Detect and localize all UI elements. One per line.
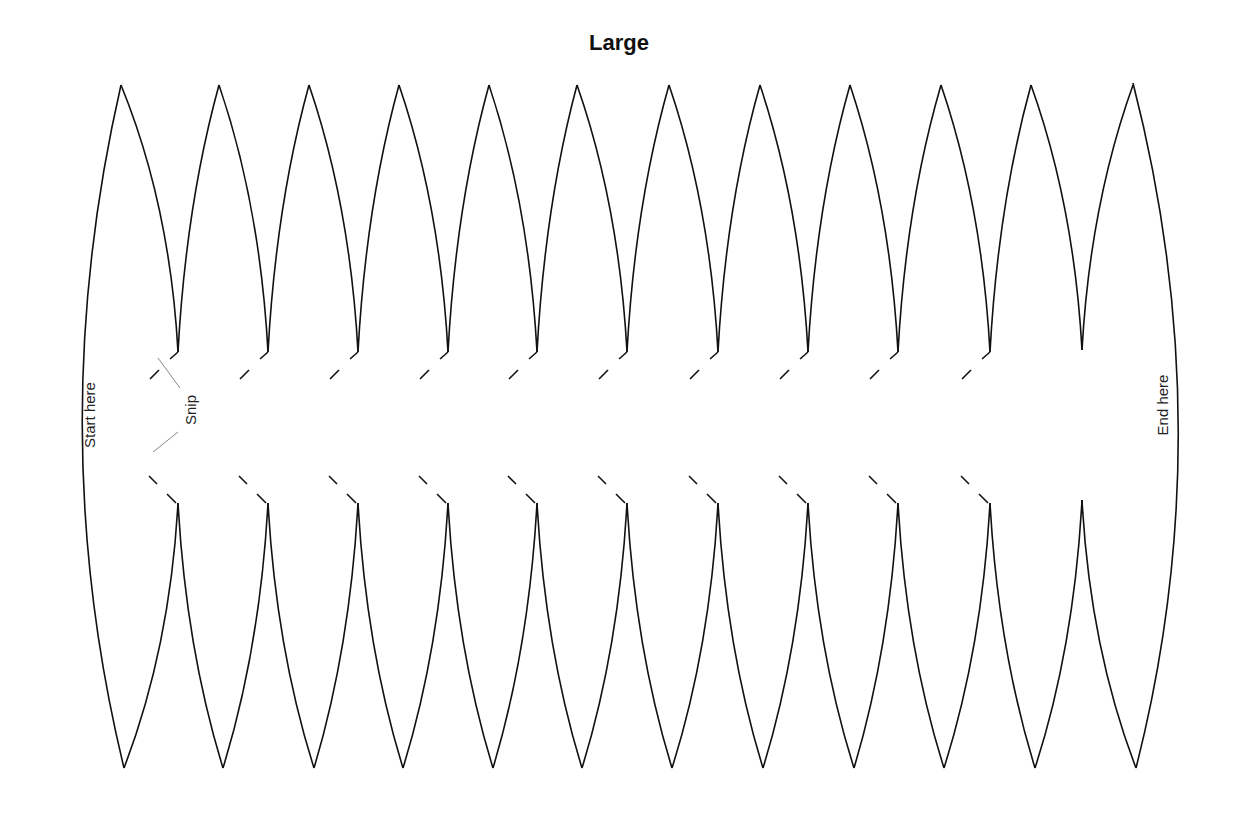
outline-segment bbox=[1082, 85, 1133, 350]
outline-segment bbox=[223, 503, 268, 768]
start-here-label: Start here bbox=[81, 382, 98, 448]
outline-segment bbox=[599, 370, 608, 379]
outline-segment bbox=[898, 503, 944, 768]
outline-segment bbox=[239, 476, 247, 484]
outline-segment bbox=[669, 85, 718, 352]
outline-segment bbox=[529, 352, 537, 359]
outline-segment bbox=[121, 85, 178, 352]
outline-segment bbox=[178, 85, 219, 352]
outline-segment bbox=[616, 494, 625, 503]
end-here-label: End here bbox=[1154, 375, 1171, 436]
outline-segment bbox=[448, 85, 489, 352]
outline-segment bbox=[627, 503, 672, 768]
outline-segment bbox=[489, 85, 537, 352]
outline-segment bbox=[941, 85, 990, 352]
outline-segment bbox=[898, 85, 941, 352]
outline-segment bbox=[526, 494, 535, 503]
outline-segment bbox=[869, 476, 877, 484]
outline-segment bbox=[150, 370, 159, 379]
outline-segment bbox=[707, 494, 716, 503]
outline-segment bbox=[219, 85, 268, 352]
outline-segment bbox=[314, 503, 358, 768]
outline-segment bbox=[268, 85, 309, 352]
outline-segment bbox=[854, 503, 898, 768]
snip-label: Snip bbox=[182, 395, 199, 425]
outline-segment bbox=[780, 370, 789, 379]
outline-segment bbox=[962, 370, 971, 379]
outline-segment bbox=[350, 352, 358, 359]
outline-segment bbox=[944, 503, 990, 768]
outline-segment bbox=[260, 352, 268, 359]
outline-segment bbox=[760, 85, 808, 352]
outline-segment bbox=[808, 85, 850, 352]
outline-segment bbox=[419, 476, 427, 484]
outline-segment bbox=[887, 494, 896, 503]
outline-segment bbox=[800, 352, 808, 359]
outline-segment bbox=[890, 352, 898, 359]
outline-segment bbox=[440, 352, 448, 359]
outline-segment bbox=[619, 352, 627, 359]
outline-segment bbox=[493, 503, 537, 768]
outline-segment bbox=[178, 503, 223, 768]
outline-segment bbox=[1035, 500, 1082, 768]
outline-segment bbox=[850, 85, 898, 352]
outline-segment bbox=[399, 85, 448, 352]
outline-segment bbox=[870, 370, 879, 379]
outline-segment bbox=[710, 352, 718, 359]
outline-segment bbox=[979, 494, 988, 503]
outline-segment bbox=[672, 503, 718, 768]
outline-segment bbox=[689, 476, 697, 484]
outline-segment bbox=[627, 85, 669, 352]
outline-segment bbox=[990, 503, 1035, 768]
outline-segment bbox=[240, 370, 249, 379]
outline-segment bbox=[779, 476, 787, 484]
outline-segment bbox=[330, 370, 339, 379]
outline-segment bbox=[690, 370, 699, 379]
outline-segment bbox=[124, 503, 178, 768]
outline-segment bbox=[582, 503, 627, 768]
outline-segment bbox=[797, 494, 806, 503]
outline-segment bbox=[257, 494, 266, 503]
outline-segment bbox=[990, 85, 1031, 352]
outline-segment bbox=[167, 494, 176, 503]
outline-segment bbox=[358, 503, 403, 768]
outline-segment bbox=[1031, 85, 1082, 350]
outline-segment bbox=[509, 370, 518, 379]
outline-segment bbox=[437, 494, 446, 503]
outline-segment bbox=[982, 352, 990, 359]
outline-segment bbox=[268, 503, 314, 768]
outline-segment bbox=[358, 85, 399, 352]
outline-segment bbox=[403, 503, 448, 768]
outline-segment bbox=[598, 476, 606, 484]
outline-segment bbox=[537, 85, 577, 352]
outline-segment bbox=[537, 503, 582, 768]
outline-segment bbox=[347, 494, 356, 503]
outline-segment bbox=[149, 476, 157, 484]
outline-segment bbox=[718, 503, 763, 768]
outline-segment bbox=[170, 352, 178, 359]
outline-segment bbox=[1082, 500, 1136, 768]
snip-marks bbox=[149, 352, 990, 503]
outline-segment bbox=[329, 476, 337, 484]
outline-segment bbox=[309, 85, 358, 352]
outline-segment bbox=[961, 476, 969, 484]
gore-outline bbox=[82, 83, 1178, 768]
outline-segment bbox=[718, 85, 760, 352]
outline-segment bbox=[763, 503, 808, 768]
outline-segment bbox=[420, 370, 429, 379]
outline-segment bbox=[448, 503, 493, 768]
outline-segment bbox=[808, 503, 854, 768]
outline-segment bbox=[577, 85, 627, 352]
outline-segment bbox=[508, 476, 516, 484]
